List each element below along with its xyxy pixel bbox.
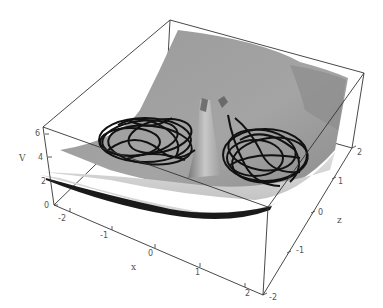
x-axis-label: x [131, 262, 136, 272]
potential-surface [40, 30, 348, 219]
x-axis [70, 208, 245, 287]
v-tick-2: 2 [41, 177, 46, 186]
v-axis [45, 134, 58, 205]
v-axis-label: V [18, 153, 26, 163]
surface-plot-3d: 0 2 4 6 V -2 -1 0 1 2 x -2 -1 0 1 2 z [0, 0, 383, 308]
z-tick-neg2: -2 [269, 293, 277, 302]
v-tick-6: 6 [35, 129, 40, 138]
v-tick-0: 0 [44, 201, 49, 210]
x-tick-1: 1 [195, 268, 200, 277]
x-tick-0: 0 [148, 249, 153, 258]
z-tick-0: 0 [318, 208, 323, 217]
z-tick-neg1: -1 [296, 246, 304, 255]
z-tick-2: 2 [357, 148, 362, 157]
z-axis-label: z [337, 215, 342, 225]
z-tick-1: 1 [338, 177, 343, 186]
x-tick-neg1: -1 [100, 231, 108, 240]
x-tick-neg2: -2 [58, 214, 66, 223]
v-tick-4: 4 [38, 153, 43, 162]
x-tick-2: 2 [245, 289, 250, 298]
